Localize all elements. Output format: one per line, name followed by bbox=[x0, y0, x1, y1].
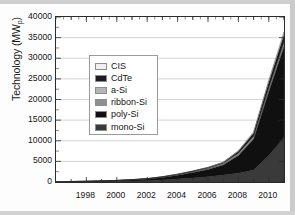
legend-swatch-icon bbox=[95, 75, 107, 82]
plot-area: CISCdTea-Siribbon-Sipoly-Simono-Si bbox=[55, 16, 285, 183]
legend-item[interactable]: CdTe bbox=[95, 72, 157, 84]
legend-item-label: ribbon-Si bbox=[111, 98, 147, 107]
x-tick-label: 2010 bbox=[248, 190, 288, 200]
legend-item[interactable]: a-Si bbox=[95, 84, 157, 96]
legend: CISCdTea-Siribbon-Sipoly-Simono-Si bbox=[89, 55, 158, 135]
legend-item-label: CIS bbox=[111, 62, 126, 71]
legend-item-label: a-Si bbox=[111, 86, 127, 95]
legend-swatch-icon bbox=[95, 63, 107, 70]
figure-root: Technology (MWp) 40000350003000025000200… bbox=[0, 0, 295, 215]
legend-item-label: poly-Si bbox=[111, 110, 139, 119]
legend-swatch-icon bbox=[95, 99, 107, 106]
legend-swatch-icon bbox=[95, 87, 107, 94]
legend-item-label: CdTe bbox=[111, 74, 132, 83]
legend-swatch-icon bbox=[95, 124, 107, 131]
legend-item-label: mono-Si bbox=[111, 123, 145, 132]
legend-item[interactable]: mono-Si bbox=[95, 121, 157, 133]
legend-item[interactable]: ribbon-Si bbox=[95, 97, 157, 109]
legend-swatch-icon bbox=[95, 111, 107, 118]
legend-item[interactable]: CIS bbox=[95, 60, 157, 72]
legend-item[interactable]: poly-Si bbox=[95, 109, 157, 121]
